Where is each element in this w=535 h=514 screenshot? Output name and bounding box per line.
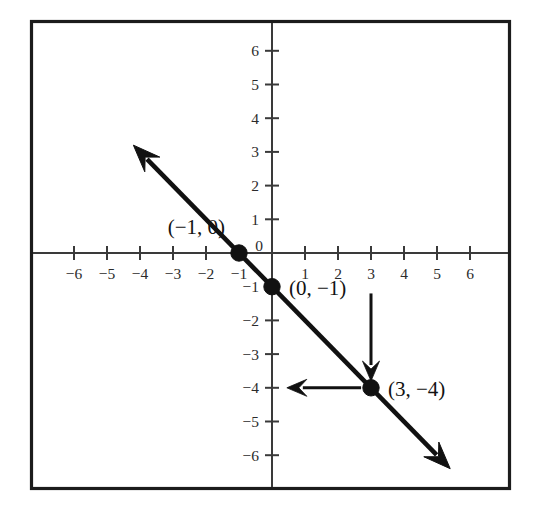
graph-line-0 (147, 159, 437, 455)
x-tick-label--4: −4 (132, 265, 149, 282)
y-tick-label--3: −3 (243, 346, 260, 363)
x-tick-label--5: −5 (99, 265, 116, 282)
y-tick-label-3: 3 (251, 143, 259, 160)
x-tick-label--2: −2 (198, 265, 215, 282)
y-tick-label--1: −1 (243, 278, 260, 295)
x-tick-label--6: −6 (66, 265, 83, 282)
y-tick-label-2: 2 (251, 177, 259, 194)
x-tick-label-4: 4 (400, 265, 408, 282)
y-tick-label-5: 5 (251, 76, 259, 93)
plot-point-1 (264, 279, 280, 295)
y-tick-label--6: −6 (243, 447, 260, 464)
y-tick-label--5: −5 (243, 413, 260, 430)
y-tick-label--4: −4 (243, 379, 260, 396)
x-tick-label-3: 3 (367, 265, 375, 282)
coordinate-plane-figure: −6−5−4−3−2−1123456 −6−5−4−3−2−1123456 0 … (0, 0, 535, 514)
y-tick-label-4: 4 (251, 110, 259, 127)
plot-point-2 (363, 380, 379, 396)
x-tick-label--3: −3 (165, 265, 182, 282)
x-tick-label-5: 5 (433, 265, 441, 282)
origin-tick-label: 0 (255, 237, 263, 254)
y-tick-label-1: 1 (251, 211, 259, 228)
point-label-0: (−1, 0) (168, 215, 225, 239)
graph-canvas: −6−5−4−3−2−1123456 −6−5−4−3−2−1123456 0 … (0, 0, 535, 514)
point-label-1: (0, −1) (289, 276, 346, 300)
y-tick-label--2: −2 (243, 312, 260, 329)
point-label-2: (3, −4) (388, 377, 445, 401)
point-labels-group: (−1, 0)(0, −1)(3, −4) (168, 215, 446, 401)
y-tick-label-6: 6 (251, 42, 259, 59)
graph-line-group (133, 145, 450, 469)
x-tick-label-6: 6 (466, 265, 474, 282)
plot-point-0 (231, 245, 247, 261)
